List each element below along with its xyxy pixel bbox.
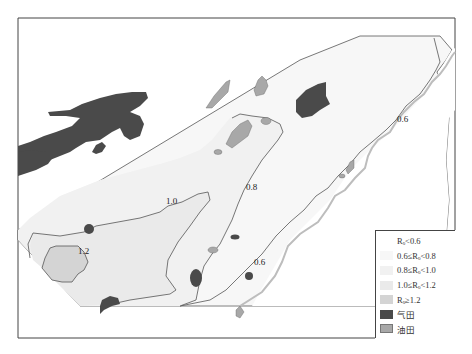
gas-field-west-edge xyxy=(18,150,54,176)
gas-field-south-center xyxy=(190,269,202,287)
legend-label: Rₒ≥1.2 xyxy=(397,295,420,305)
oil-field-east-2 xyxy=(339,174,345,178)
legend-label: 0.8≤Rₒ<1.0 xyxy=(397,265,436,275)
legend-item-ro-ge-1.2: Rₒ≥1.2 xyxy=(380,292,455,307)
legend-item-ro-0.6-0.8: 0.6≤Rₒ<0.8 xyxy=(380,249,455,264)
legend-swatch xyxy=(380,281,393,290)
gas-field-center-small xyxy=(231,235,240,240)
legend-item-gas-field: 气田 xyxy=(380,307,455,322)
legend-item-oil-field: 油田 xyxy=(380,322,455,337)
contour-label-0.6-north: 0.6 xyxy=(397,114,409,124)
legend-label: Rₒ<0.6 xyxy=(397,236,421,246)
legend-item-ro-1.0-1.2: 1.0≤Rₒ<1.2 xyxy=(380,278,455,293)
legend-swatch xyxy=(380,324,393,333)
legend: Rₒ<0.6 0.6≤Rₒ<0.8 0.8≤Rₒ<1.0 1.0≤Rₒ<1.2 … xyxy=(375,230,455,338)
legend-swatch xyxy=(380,251,393,260)
legend-swatch xyxy=(380,237,393,246)
oil-field-north-1 xyxy=(206,80,230,108)
oil-field-south-isolated xyxy=(236,306,244,318)
legend-swatch xyxy=(380,266,393,275)
legend-label: 油田 xyxy=(397,323,415,335)
contour-label-1.0: 1.0 xyxy=(166,196,178,206)
contour-label-0.8: 0.8 xyxy=(246,182,258,192)
legend-label: 气田 xyxy=(397,308,415,320)
oil-field-south-center xyxy=(208,247,218,253)
contour-label-1.2: 1.2 xyxy=(78,246,89,256)
legend-label: 1.0≤Rₒ<1.2 xyxy=(397,280,436,290)
legend-item-ro-lt-0.6: Rₒ<0.6 xyxy=(380,234,455,249)
gas-field-west-center xyxy=(84,224,94,234)
oil-field-small-2 xyxy=(214,150,222,155)
gas-field-small-1 xyxy=(92,142,106,154)
contour-label-0.6-south: 0.6 xyxy=(254,257,266,267)
legend-swatch xyxy=(380,310,393,319)
oil-field-small-1 xyxy=(261,118,271,125)
legend-label: 0.6≤Rₒ<0.8 xyxy=(397,251,436,261)
gas-field-east-isolated xyxy=(245,272,253,280)
legend-swatch xyxy=(380,295,393,304)
legend-item-ro-0.8-1.0: 0.8≤Rₒ<1.0 xyxy=(380,263,455,278)
